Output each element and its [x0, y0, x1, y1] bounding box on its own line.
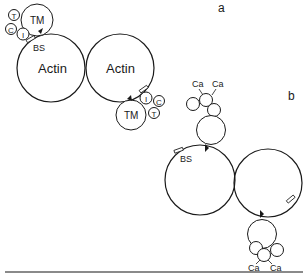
- troponin-t-bottom: [271, 244, 284, 257]
- troponin-t-upper-label: T: [12, 12, 17, 21]
- troponin-i-top: [208, 104, 221, 117]
- troponin-i-lower-label: I: [145, 95, 147, 104]
- bs-label-a: BS: [33, 43, 45, 53]
- actin-monomer-b-right: [234, 149, 302, 217]
- binding-site-b-right: [286, 195, 295, 203]
- tm-upper-label: TM: [30, 15, 44, 26]
- ca-label-2: Ca: [212, 79, 224, 89]
- tropomyosin-top: [197, 116, 226, 145]
- bs-label-b: BS: [180, 154, 192, 164]
- bottom-divider: [5, 271, 303, 273]
- troponin-t-lower-label: T: [152, 110, 157, 119]
- panel-b-label: b: [288, 89, 295, 103]
- troponin-c-lower-label: C: [156, 98, 162, 107]
- tm-lower-label: TM: [124, 110, 138, 121]
- troponin-i-upper-label: I: [22, 31, 24, 40]
- actin-left-label: Actin: [38, 61, 67, 76]
- troponin-c-bottom: [258, 249, 271, 262]
- troponin-t-top: [187, 98, 200, 111]
- actin-right-label: Actin: [106, 61, 135, 76]
- troponin-c-upper-label: C: [8, 26, 14, 35]
- panel-a-label: a: [218, 1, 225, 15]
- actin-monomer-b-left: [165, 145, 235, 215]
- actin-tropomyosin-diagram: a Actin Actin TM T C I BS TM I C T b Ca: [0, 0, 305, 278]
- panel-b: b Ca Ca BS Ca Ca: [165, 79, 302, 273]
- ca-label-1: Ca: [192, 79, 204, 89]
